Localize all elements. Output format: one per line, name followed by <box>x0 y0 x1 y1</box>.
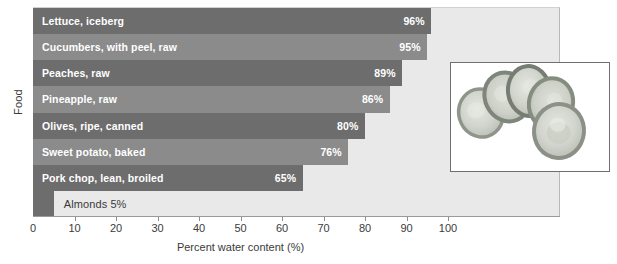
x-axis-tick-label: 40 <box>179 222 219 234</box>
x-axis-tick-label: 70 <box>304 222 344 234</box>
x-axis-tick <box>324 217 325 221</box>
bar-row: Cucumbers, with peel, raw95% <box>33 34 559 60</box>
y-axis-title: Food <box>12 72 24 132</box>
x-axis-tick-label: 90 <box>387 222 427 234</box>
x-axis-tick <box>75 217 76 221</box>
bar-row: Lettuce, iceberg96% <box>33 8 559 34</box>
x-axis-tick-label: 20 <box>96 222 136 234</box>
bar-category-label: Pineapple, raw <box>42 93 117 105</box>
bar-category-label: Almonds 5% <box>64 198 127 210</box>
bar-row: Almonds 5% <box>33 191 559 217</box>
x-axis-tick-label: 10 <box>55 222 95 234</box>
x-axis-tick <box>407 217 408 221</box>
bar-category-label: Lettuce, iceberg <box>42 15 124 27</box>
bar-value-label: 89% <box>374 67 395 79</box>
bar-value-label: 95% <box>399 41 420 53</box>
bar-value-label: 86% <box>362 93 383 105</box>
bar <box>33 191 54 217</box>
x-axis-tick <box>158 217 159 221</box>
bar-value-label: 96% <box>403 15 424 27</box>
bar-category-label: Cucumbers, with peel, raw <box>42 41 177 53</box>
bar-value-label: 65% <box>275 172 296 184</box>
cucumber-slices-illustration <box>451 63 609 171</box>
cucumber-slices-photo <box>450 62 610 172</box>
x-axis-tick-label: 0 <box>13 222 53 234</box>
x-axis-tick-label: 50 <box>221 222 261 234</box>
x-axis-tick-label: 80 <box>345 222 385 234</box>
x-axis-tick <box>448 217 449 221</box>
bar-category-label: Sweet potato, baked <box>42 146 145 158</box>
x-axis-tick-label: 60 <box>262 222 302 234</box>
x-axis-tick-label: 30 <box>138 222 178 234</box>
x-axis-tick <box>116 217 117 221</box>
bar-value-label: 76% <box>320 146 341 158</box>
x-axis-tick-label: 100 <box>428 222 468 234</box>
x-axis-tick <box>282 217 283 221</box>
x-axis-line <box>33 216 560 217</box>
x-axis-tick <box>365 217 366 221</box>
bar-category-label: Pork chop, lean, broiled <box>42 172 163 184</box>
bar-category-label: Peaches, raw <box>42 67 110 79</box>
x-axis-title: Percent water content (%) <box>33 241 448 253</box>
bar-value-label: 80% <box>337 120 358 132</box>
water-content-bar-chart: Food Lettuce, iceberg96%Cucumbers, with … <box>0 0 617 264</box>
bar-category-label: Olives, ripe, canned <box>42 120 143 132</box>
x-axis-tick <box>241 217 242 221</box>
x-axis-tick <box>199 217 200 221</box>
